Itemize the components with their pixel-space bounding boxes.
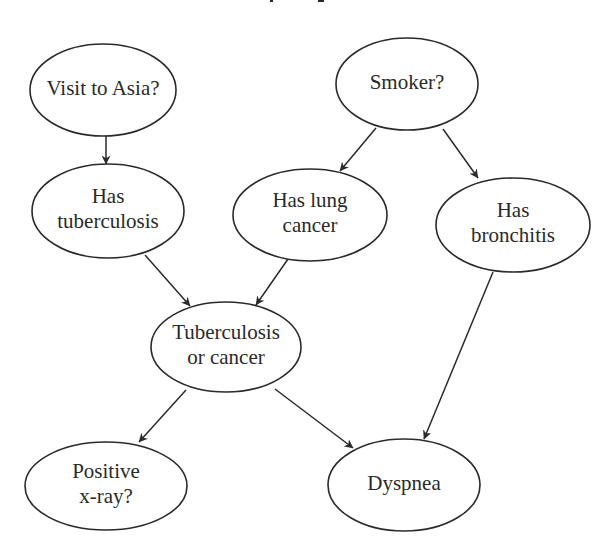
node-label: Dyspnea [367,471,441,495]
arrow-smoker-to-bronchitis [443,129,478,178]
arrow-smoker-to-lung_cancer [340,128,376,171]
node-label: Smoker? [370,70,445,94]
node-label: x-ray? [79,484,133,508]
clipped-text-fragment [270,0,273,2]
arrow-tb_or_cancer-to-xray [139,390,186,442]
node-bronchitis: Hasbronchitis [436,178,590,272]
node-tb-or-cancer: Tuberculosisor cancer [151,302,301,392]
clipped-text-fragment [318,0,324,2]
node-lung-cancer: Has lungcancer [233,169,387,261]
node-dyspnea: Dyspnea [328,439,480,531]
node-smoker: Smoker? [336,38,478,130]
node-label: cancer [283,213,338,237]
node-label: bronchitis [471,223,555,247]
arrow-tuberculosis-to-tb_or_cancer [145,255,190,306]
nodes-layer: Visit to Asia?Smoker?HastuberculosisHas … [25,38,590,531]
arrow-tb_or_cancer-to-dyspnea [275,389,353,448]
arrow-bronchitis-to-dyspnea [424,272,493,439]
node-label: Has [92,184,125,208]
node-xray: Positivex-ray? [25,442,187,530]
bayesian-network-diagram: Visit to Asia?Smoker?HastuberculosisHas … [0,0,613,549]
node-label: Tuberculosis [172,320,280,344]
node-label: or cancer [187,345,265,369]
node-label: Positive [72,459,140,483]
node-label: Visit to Asia? [46,76,159,100]
node-label: tuberculosis [57,209,158,233]
node-label: Has lung [272,188,348,212]
node-tuberculosis: Hastuberculosis [32,164,184,258]
node-label: Has [497,198,530,222]
arrow-lung_cancer-to-tb_or_cancer [256,259,288,305]
node-asia: Visit to Asia? [30,44,176,136]
